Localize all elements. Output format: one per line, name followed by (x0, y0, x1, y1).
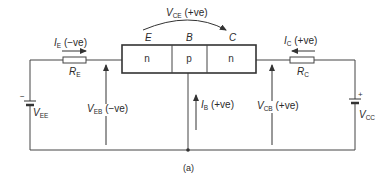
vcb-label: VCB (+ve) (256, 101, 300, 113)
terminal-e-label: E (145, 33, 152, 43)
battery-vee (24, 101, 36, 105)
base-junction-dot (186, 148, 190, 152)
resistor-re (63, 57, 86, 63)
resistor-rc (290, 57, 314, 63)
vee-label: VEE (33, 108, 48, 120)
veb-label: VEB (−ve) (86, 104, 129, 116)
rc-label: RC (297, 67, 309, 79)
circuit-schematic (0, 0, 392, 179)
ib-label: IB (+ve) (201, 100, 234, 112)
figure-caption: (a) (183, 164, 194, 173)
vce-arc-arrow (143, 20, 226, 30)
terminal-c-label: C (229, 33, 236, 43)
vcc-label: VCC (359, 110, 375, 122)
vee-polarity: − (20, 93, 25, 101)
collector-region-label: n (225, 54, 237, 64)
terminal-b-label: B (186, 33, 193, 43)
vcc-polarity: + (358, 91, 363, 99)
base-region-label: p (183, 54, 195, 64)
emitter-region-label: n (141, 54, 153, 64)
vce-label: VCE (+ve) (166, 8, 208, 20)
battery-vcc (349, 99, 361, 103)
re-label: RE (69, 67, 81, 79)
ie-label: IE (−ve) (54, 38, 87, 50)
ic-label: IC (+ve) (284, 36, 317, 48)
